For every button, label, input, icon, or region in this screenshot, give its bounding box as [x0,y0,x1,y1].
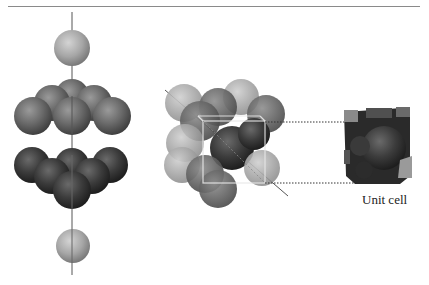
sphere-bottom [56,229,90,263]
fcc-diagram [0,0,429,285]
unit-cell [344,107,412,184]
sphere-top [54,30,90,66]
unit-cell-caption: Unit cell [362,192,407,208]
layered-stack [14,12,131,275]
cubic-arrangement [164,79,288,208]
